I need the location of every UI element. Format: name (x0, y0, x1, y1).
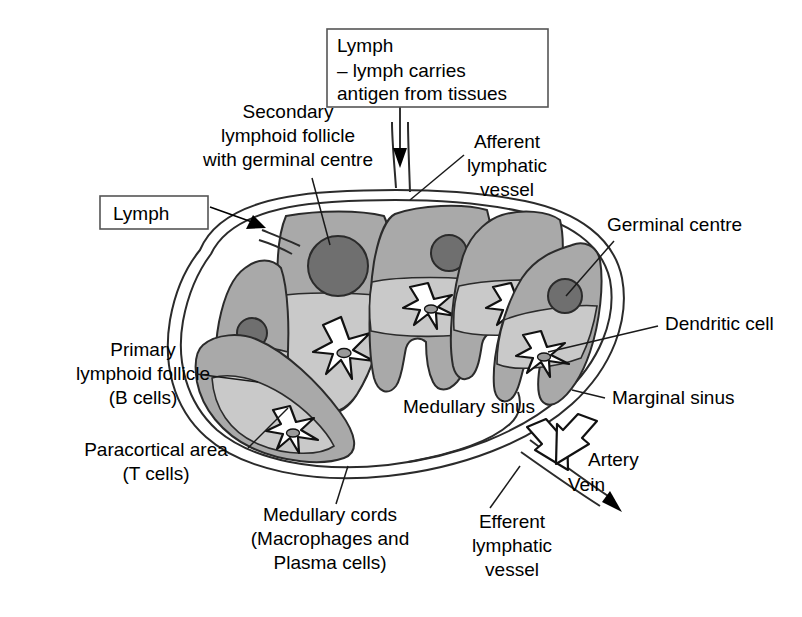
efferent-vessel-line-1: Efferent (479, 511, 546, 532)
medullary-cords-line-3: Plasma cells) (274, 552, 387, 573)
label-marginal-sinus: Marginal sinus (572, 387, 735, 408)
lymph-antigen-line-3: antigen from tissues (337, 83, 507, 104)
lymph-antigen-callout-box: Lymph – lymph carries antigen from tissu… (327, 29, 548, 107)
lymph-flow-arrow-top (393, 106, 407, 168)
afferent-vessel-line-2: lymphatic (467, 155, 547, 176)
label-efferent-vessel: Efferent lymphatic vessel (472, 466, 552, 580)
primary-follicle-line-1: Primary (110, 339, 176, 360)
afferent-vessel-line-3: vessel (480, 179, 534, 200)
secondary-follicle-line-1: Secondary (243, 101, 334, 122)
medullary-sinus-label: Medullary sinus (403, 396, 535, 417)
efferent-vessel-line-2: lymphatic (472, 535, 552, 556)
germinal-centre-label: Germinal centre (607, 214, 742, 235)
lymph-node-diagram: Lymph – lymph carries antigen from tissu… (0, 0, 802, 617)
secondary-follicle-line-2: lymphoid follicle (221, 125, 355, 146)
artery-vein-arrows (527, 414, 597, 470)
afferent-vessel-line-1: Afferent (474, 131, 541, 152)
lymph-callout-box: Lymph (100, 196, 208, 229)
lymph-antigen-line-2: – lymph carries (337, 60, 466, 81)
primary-follicle-line-2: lymphoid follicle (76, 363, 210, 384)
secondary-follicle-line-3: with germinal centre (202, 149, 373, 170)
efferent-vessel-line-3: vessel (485, 559, 539, 580)
germinal-centre-large (308, 236, 368, 296)
label-medullary-cords: Medullary cords (Macrophages and Plasma … (251, 466, 409, 573)
paracortical-area-line-2: (T cells) (122, 463, 189, 484)
dendritic-cell-label: Dendritic cell (665, 313, 774, 334)
marginal-sinus-label: Marginal sinus (612, 387, 735, 408)
lymph-box-label: Lymph (113, 203, 169, 224)
paracortical-area-line-1: Paracortical area (84, 439, 228, 460)
medullary-cords-line-2: (Macrophages and (251, 528, 409, 549)
artery-label: Artery (588, 449, 639, 470)
medullary-cords-line-1: Medullary cords (263, 504, 397, 525)
lymph-node-illustration: Lymph – lymph carries antigen from tissu… (0, 0, 802, 617)
vein-label: Vein (568, 474, 605, 495)
primary-follicle-line-3: (B cells) (109, 387, 178, 408)
lymph-antigen-line-1: Lymph (337, 35, 393, 56)
